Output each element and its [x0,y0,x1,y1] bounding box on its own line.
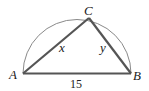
side-ac [23,18,89,74]
side-ac-label: x [58,40,65,55]
side-bc-label: y [98,40,106,55]
side-bc [89,18,131,74]
vertex-a-label: A [8,67,17,82]
semicircle-triangle-diagram: A B C x y 15 [0,0,149,91]
vertex-b-label: B [133,68,141,83]
vertex-c-label: C [84,3,93,18]
side-ab-length: 15 [70,77,82,91]
